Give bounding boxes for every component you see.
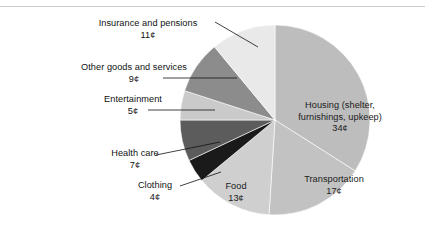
slice-label-insurance-name: Insurance and pensions <box>78 18 218 30</box>
slice-label-clothing: Clothing 4¢ <box>104 180 206 203</box>
slice-label-food-value: 13¢ <box>212 193 260 205</box>
slice-label-other-goods-and-services: Other goods and services 9¢ <box>58 62 210 85</box>
slice-label-entertainment-name: Entertainment <box>70 94 196 106</box>
slice-label-clothing-value: 4¢ <box>104 192 206 204</box>
slice-label-housing: Housing (shelter, furnishings, upkeep) 3… <box>282 100 398 135</box>
slice-label-transportation: Transportation 17¢ <box>284 174 384 197</box>
slice-label-insurance-and-pensions: Insurance and pensions 11¢ <box>78 18 218 41</box>
slice-label-transportation-value: 17¢ <box>284 186 384 198</box>
slice-label-clothing-name: Clothing <box>104 180 206 192</box>
slice-label-entertainment-value: 5¢ <box>70 106 196 118</box>
slice-label-health-care: Health care 7¢ <box>78 148 192 171</box>
pie-chart-figure: Insurance and pensions 11¢ Other goods a… <box>0 0 425 234</box>
slice-label-health-care-value: 7¢ <box>78 160 192 172</box>
slice-label-food-name: Food <box>212 181 260 193</box>
slice-label-health-care-name: Health care <box>78 148 192 160</box>
slice-label-housing-value: 34¢ <box>282 123 398 135</box>
slice-label-housing-line1: Housing (shelter, <box>282 100 398 112</box>
slice-label-housing-line2: furnishings, upkeep) <box>282 112 398 124</box>
slice-label-insurance-value: 11¢ <box>78 30 218 42</box>
slice-label-transportation-name: Transportation <box>284 174 384 186</box>
slice-label-other-goods-value: 9¢ <box>58 74 210 86</box>
slice-label-food: Food 13¢ <box>212 181 260 204</box>
slice-label-other-goods-name: Other goods and services <box>58 62 210 74</box>
slice-label-entertainment: Entertainment 5¢ <box>70 94 196 117</box>
